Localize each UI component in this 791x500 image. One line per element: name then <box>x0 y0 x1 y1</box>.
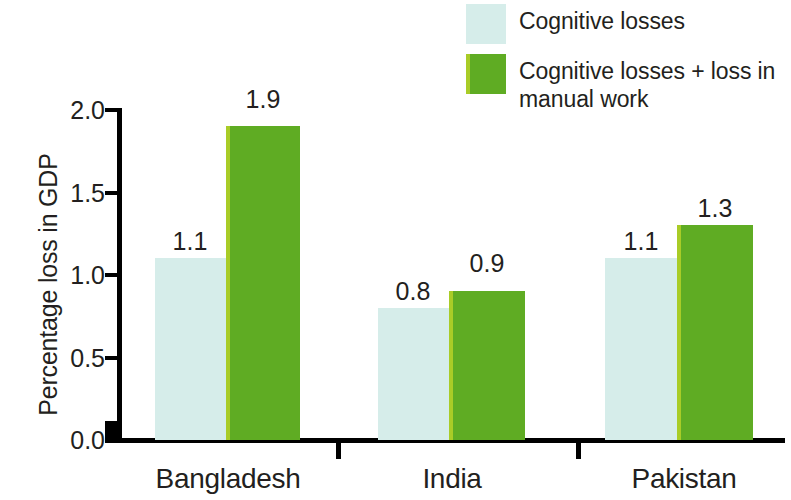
x-axis-label-india: India <box>422 463 481 495</box>
y-tick-mark-1.5 <box>105 191 122 195</box>
x-axis-label-bangladesh: Bangladesh <box>156 463 301 495</box>
chart-container: Cognitive losses Cognitive losses + loss… <box>0 0 791 500</box>
bar-india-cognitive-losses <box>378 308 449 440</box>
y-tick-label-1.5: 1.5 <box>45 179 105 208</box>
x-axis-separator-1 <box>336 441 341 459</box>
bar-india-cognitive-plus-manual <box>449 291 525 440</box>
bar-pakistan-cognitive-losses <box>605 258 677 440</box>
y-tick-label-1.0: 1.0 <box>45 261 105 290</box>
y-tick-label-0.0: 0.0 <box>45 426 105 455</box>
bar-value-india-cognitive-losses: 0.8 <box>396 277 431 306</box>
bar-value-bangladesh-cognitive-losses: 1.1 <box>173 227 208 256</box>
bar-pakistan-cognitive-plus-manual <box>677 225 753 440</box>
bar-bangladesh-cognitive-losses <box>155 258 226 440</box>
bar-value-pakistan-cognitive-losses: 1.1 <box>624 227 659 256</box>
y-tick-label-2.0: 2.0 <box>45 96 105 125</box>
y-tick-mark-0.0 <box>105 421 122 443</box>
bar-value-pakistan-cognitive-plus-manual: 1.3 <box>698 194 733 223</box>
y-tick-mark-0.5 <box>105 356 122 360</box>
bar-value-india-cognitive-plus-manual: 0.9 <box>470 249 505 278</box>
y-tick-mark-1.0 <box>105 273 122 277</box>
y-tick-mark-2.0 <box>105 108 122 112</box>
y-tick-label-0.5: 0.5 <box>45 344 105 373</box>
plot-area: 2.0 1.5 1.0 0.5 0.0 1.1 1.9 0.8 0.9 <box>0 0 791 500</box>
bar-bangladesh-cognitive-plus-manual <box>226 126 300 440</box>
bar-value-bangladesh-cognitive-plus-manual: 1.9 <box>246 85 281 114</box>
x-axis-label-pakistan: Pakistan <box>632 463 737 495</box>
x-axis-separator-2 <box>576 441 581 459</box>
